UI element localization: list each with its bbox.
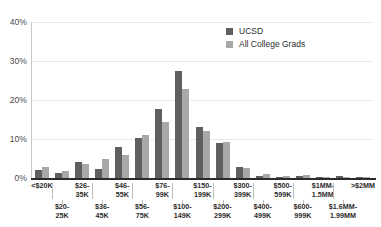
bar-group xyxy=(112,22,132,178)
bar-group xyxy=(92,22,112,178)
bar-ucsd xyxy=(236,167,243,178)
bar-ucsd xyxy=(135,138,142,178)
bar-all-college-grads xyxy=(223,142,230,178)
x-axis-label-line: 599K xyxy=(274,190,291,199)
x-axis-label-line: <$20K xyxy=(31,181,52,190)
bar-ucsd xyxy=(95,169,102,178)
x-axis-tick xyxy=(132,183,133,199)
legend-label-all-college-grads: All College Grads xyxy=(239,39,305,49)
bar-ucsd xyxy=(336,176,343,178)
bar-all-college-grads xyxy=(62,171,69,178)
bar-ucsd xyxy=(356,177,363,178)
x-axis-category-label: >$2MM xyxy=(337,182,381,191)
bar-ucsd xyxy=(175,71,182,178)
x-axis-tick xyxy=(92,183,93,199)
x-axis-tick xyxy=(343,200,344,204)
y-axis-tick-label: 40% xyxy=(0,17,27,27)
bar-ucsd xyxy=(216,143,223,178)
bar-group xyxy=(32,22,52,178)
x-axis-tick xyxy=(333,183,334,199)
bar-group xyxy=(353,22,373,178)
bar-all-college-grads xyxy=(303,175,310,178)
x-axis-label-line: 45K xyxy=(96,211,109,220)
bar-all-college-grads xyxy=(102,159,109,178)
x-axis-tick xyxy=(223,200,224,204)
x-axis-tick xyxy=(303,200,304,204)
bar-groups xyxy=(32,22,373,178)
x-axis-label-line: 999K xyxy=(294,211,311,220)
bar-ucsd xyxy=(35,170,42,178)
x-axis-tick xyxy=(52,183,53,199)
x-axis-label-line: 35K xyxy=(76,190,89,199)
bar-all-college-grads xyxy=(162,122,169,178)
chart-legend: UCSD All College Grads xyxy=(226,26,305,52)
bar-all-college-grads xyxy=(323,177,330,178)
x-axis-label-line: >$2MM xyxy=(351,181,375,190)
x-axis-tick xyxy=(263,200,264,204)
x-axis-label-line: 299K xyxy=(214,211,231,220)
x-axis-label-line: 199K xyxy=(194,190,211,199)
bar-all-college-grads xyxy=(182,89,189,178)
legend-label-ucsd: UCSD xyxy=(239,26,263,36)
x-axis-tick xyxy=(62,200,63,204)
y-axis-tick-label: 10% xyxy=(0,134,27,144)
bar-ucsd xyxy=(276,177,283,178)
bar-all-college-grads xyxy=(82,164,89,178)
bar-all-college-grads xyxy=(203,131,210,178)
bar-all-college-grads xyxy=(243,168,250,178)
bar-all-college-grads xyxy=(283,176,290,178)
bar-ucsd xyxy=(256,176,263,178)
bar-all-college-grads xyxy=(122,155,129,178)
y-axis-tick-label: 20% xyxy=(0,95,27,105)
bar-group xyxy=(193,22,213,178)
bar-ucsd xyxy=(296,176,303,178)
bar-group xyxy=(152,22,172,178)
bar-ucsd xyxy=(115,147,122,178)
x-axis-tick xyxy=(182,200,183,204)
x-axis-label-line: 1.99MM xyxy=(330,211,356,220)
x-axis-tick xyxy=(213,183,214,199)
bar-group xyxy=(333,22,353,178)
bar-ucsd xyxy=(196,127,203,178)
x-axis-label-line: 499K xyxy=(254,211,271,220)
income-distribution-bar-chart: 40%30%20%10%0% UCSD All College Grads <$… xyxy=(0,0,381,227)
x-axis-category-label: $1.6MM-1.99MM xyxy=(317,203,369,220)
x-axis-label-line: 1.5MM xyxy=(312,190,334,199)
bar-all-college-grads xyxy=(142,135,149,178)
legend-swatch-ucsd xyxy=(226,28,233,35)
x-axis-label-line: 55K xyxy=(116,190,129,199)
x-axis-tick xyxy=(172,183,173,199)
legend-swatch-all-college-grads xyxy=(226,41,233,48)
x-axis-label-line: 399K xyxy=(234,190,251,199)
x-axis-tick xyxy=(142,200,143,204)
bar-ucsd xyxy=(75,162,82,178)
x-axis-tick xyxy=(253,183,254,199)
bar-group xyxy=(132,22,152,178)
bar-all-college-grads xyxy=(263,174,270,178)
bar-group xyxy=(52,22,72,178)
bar-ucsd xyxy=(55,173,62,178)
bar-ucsd xyxy=(316,177,323,178)
y-axis-tick-label: 30% xyxy=(0,56,27,66)
legend-item-ucsd: UCSD xyxy=(226,26,305,36)
x-axis-category-labels: <$20K$20-25K$26-35K$36-45K$46-55K$56-75K… xyxy=(32,181,373,227)
x-axis-label-line: 25K xyxy=(55,211,68,220)
x-axis-tick xyxy=(102,200,103,204)
bar-all-college-grads xyxy=(363,177,370,178)
x-axis-line xyxy=(31,178,376,180)
x-axis-label-line: 149K xyxy=(174,211,191,220)
x-axis-label-line: 99K xyxy=(156,190,169,199)
bar-all-college-grads xyxy=(343,177,350,178)
bar-group xyxy=(172,22,192,178)
x-axis-label-line: 75K xyxy=(136,211,149,220)
x-axis-tick xyxy=(293,183,294,199)
bar-ucsd xyxy=(155,109,162,178)
bar-all-college-grads xyxy=(42,167,49,178)
legend-item-all-college-grads: All College Grads xyxy=(226,39,305,49)
bar-group xyxy=(313,22,333,178)
bar-group xyxy=(72,22,92,178)
